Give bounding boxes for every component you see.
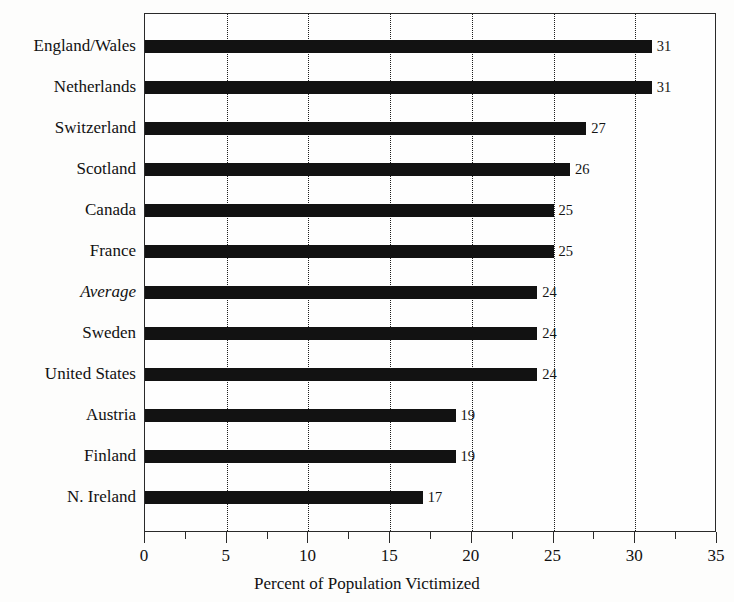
- category-label: Netherlands: [0, 78, 136, 95]
- x-tick-label: 0: [140, 547, 149, 564]
- bar-value-label: 24: [537, 285, 557, 300]
- tick-minor-17.5: [430, 532, 431, 539]
- bar-row: 27: [145, 122, 717, 135]
- bar-row: 25: [145, 245, 717, 258]
- category-label: N. Ireland: [0, 488, 136, 505]
- bar: [145, 40, 652, 53]
- x-axis-title: Percent of Population Victimized: [0, 575, 734, 592]
- bar: [145, 409, 456, 422]
- tick-minor-7.5: [267, 532, 268, 539]
- x-tick-label: 35: [708, 547, 725, 564]
- bar-row: 24: [145, 286, 717, 299]
- x-tick-label: 20: [462, 547, 479, 564]
- tick-major-0: [144, 532, 145, 543]
- tick-major-35: [716, 532, 717, 543]
- bar-value-label: 25: [554, 203, 574, 218]
- category-label: Average: [0, 283, 136, 300]
- x-tick-label: 15: [381, 547, 398, 564]
- bar: [145, 491, 423, 504]
- bar-value-label: 24: [537, 326, 557, 341]
- tick-minor-22.5: [512, 532, 513, 539]
- bar-value-label: 19: [456, 408, 476, 423]
- bar-row: 24: [145, 368, 717, 381]
- bar-row: 26: [145, 163, 717, 176]
- bar-value-label: 24: [537, 367, 557, 382]
- category-label: Austria: [0, 406, 136, 423]
- bar-row: 24: [145, 327, 717, 340]
- bar: [145, 204, 554, 217]
- bar-row: 19: [145, 409, 717, 422]
- bar-value-label: 25: [554, 244, 574, 259]
- tick-minor-27.5: [593, 532, 594, 539]
- bar-row: 25: [145, 204, 717, 217]
- bar-row: 31: [145, 40, 717, 53]
- bar-value-label: 17: [423, 490, 443, 505]
- tick-major-20: [471, 532, 472, 543]
- tick-major-25: [553, 532, 554, 543]
- category-label: England/Wales: [0, 37, 136, 54]
- x-tick-label: 5: [221, 547, 230, 564]
- plot-area: 313127262525242424191917: [144, 13, 716, 532]
- bar-row: 19: [145, 450, 717, 463]
- tick-major-10: [307, 532, 308, 543]
- bar-value-label: 26: [570, 162, 590, 177]
- bar-value-label: 27: [586, 121, 606, 136]
- tick-major-30: [634, 532, 635, 543]
- tick-minor-32.5: [675, 532, 676, 539]
- tick-major-15: [389, 532, 390, 543]
- category-label: Canada: [0, 201, 136, 218]
- bar: [145, 163, 570, 176]
- bar: [145, 450, 456, 463]
- x-tick-label: 10: [299, 547, 316, 564]
- bar-value-label: 19: [456, 449, 476, 464]
- bar-value-label: 31: [652, 39, 672, 54]
- category-label: United States: [0, 365, 136, 382]
- x-tick-label: 30: [626, 547, 643, 564]
- bar-chart: 313127262525242424191917 England/WalesNe…: [0, 0, 734, 602]
- bar-row: 17: [145, 491, 717, 504]
- bar: [145, 122, 586, 135]
- bar: [145, 286, 537, 299]
- bar: [145, 368, 537, 381]
- tick-minor-2.5: [185, 532, 186, 539]
- category-label: Sweden: [0, 324, 136, 341]
- category-label: Switzerland: [0, 119, 136, 136]
- bar-value-label: 31: [652, 80, 672, 95]
- category-label: Finland: [0, 447, 136, 464]
- category-label: Scotland: [0, 160, 136, 177]
- tick-minor-12.5: [348, 532, 349, 539]
- x-tick-label: 25: [544, 547, 561, 564]
- bar: [145, 327, 537, 340]
- bar: [145, 81, 652, 94]
- category-label: France: [0, 242, 136, 259]
- tick-major-5: [226, 532, 227, 543]
- bar: [145, 245, 554, 258]
- bar-row: 31: [145, 81, 717, 94]
